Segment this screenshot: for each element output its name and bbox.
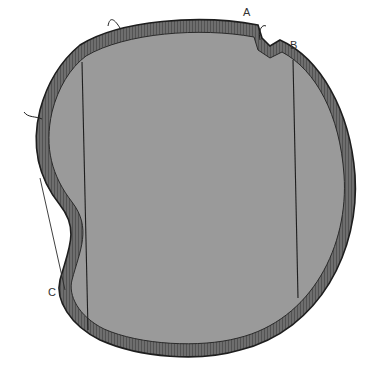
label-c: C	[48, 287, 56, 298]
label-b: B	[290, 40, 297, 51]
label-a: A	[243, 7, 250, 18]
circular-piece-diagram	[0, 0, 376, 373]
thread-tail-top	[108, 20, 120, 28]
inner-field	[49, 32, 345, 343]
